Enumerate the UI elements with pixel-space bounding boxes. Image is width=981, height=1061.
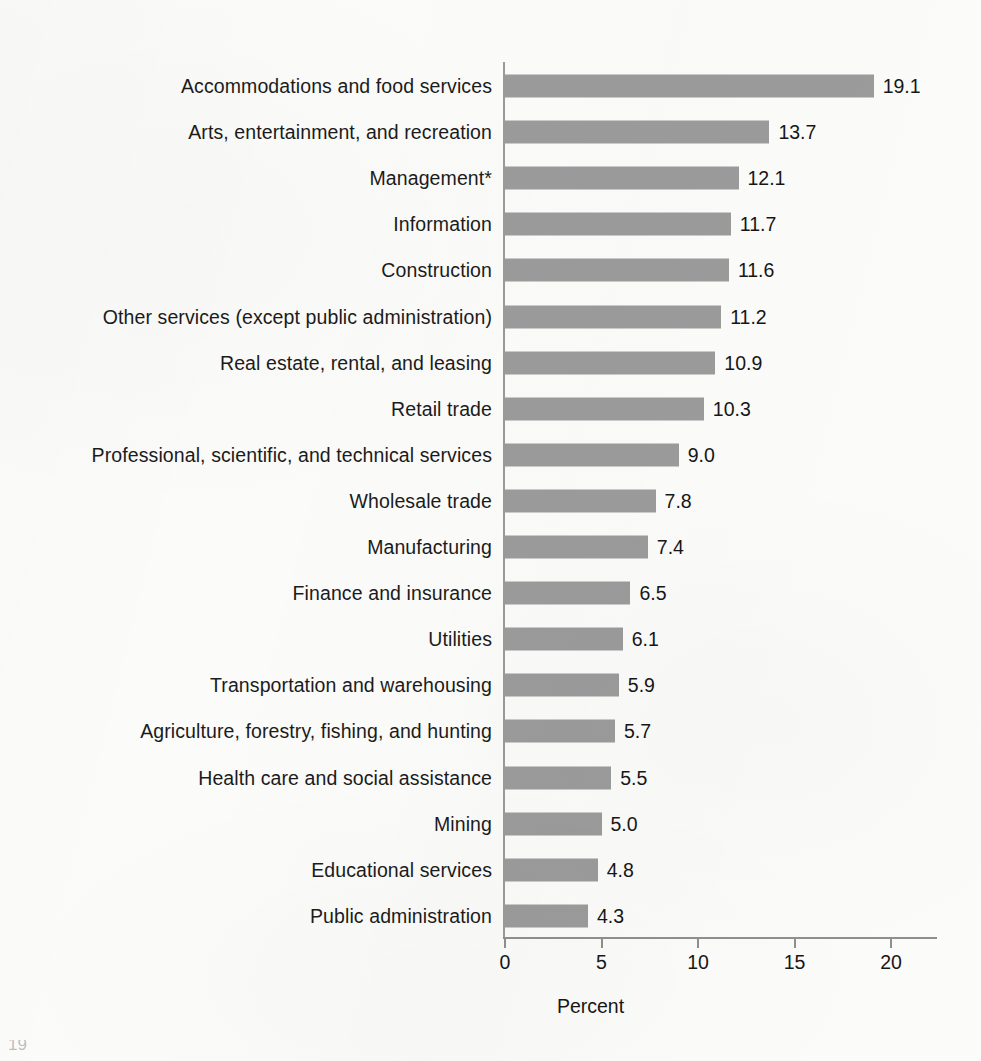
category-label: Educational services xyxy=(311,858,492,881)
bar-row: Public administration4.3 xyxy=(0,893,981,939)
category-label: Accommodations and food services xyxy=(181,75,492,98)
bar-row: Accommodations and food services19.1 xyxy=(0,63,981,109)
x-tick-mark xyxy=(890,939,892,948)
x-axis-title: Percent xyxy=(0,995,981,1018)
bar xyxy=(505,259,729,282)
bar xyxy=(505,489,656,512)
x-tick-label: 5 xyxy=(596,951,607,974)
bar xyxy=(505,167,739,190)
bar-value-label: 11.6 xyxy=(738,259,775,282)
bar-value-label: 6.5 xyxy=(639,582,666,605)
plot-area: Accommodations and food services19.1Arts… xyxy=(0,0,981,961)
x-tick-mark xyxy=(697,939,699,948)
category-label: Information xyxy=(393,213,492,236)
x-tick-label: 15 xyxy=(784,951,806,974)
bar-row: Wholesale trade7.8 xyxy=(0,478,981,524)
bar-value-label: 7.8 xyxy=(665,489,692,512)
bar-value-label: 5.0 xyxy=(611,812,638,835)
bar-row: Arts, entertainment, and recreation13.7 xyxy=(0,109,981,155)
bar-row: Health care and social assistance5.5 xyxy=(0,755,981,801)
bar-row: Retail trade10.3 xyxy=(0,386,981,432)
bar xyxy=(505,305,721,328)
bar-row: Construction11.6 xyxy=(0,247,981,293)
bar-value-label: 6.1 xyxy=(632,628,659,651)
bar-value-label: 5.5 xyxy=(620,766,647,789)
bar-value-label: 5.7 xyxy=(624,720,651,743)
bar-row: Transportation and warehousing5.9 xyxy=(0,662,981,708)
bar-row: Agriculture, forestry, fishing, and hunt… xyxy=(0,708,981,754)
category-label: Professional, scientific, and technical … xyxy=(92,443,492,466)
x-axis-title-text: Percent xyxy=(557,995,624,1018)
bar-value-label: 13.7 xyxy=(778,121,816,144)
category-label: Real estate, rental, and leasing xyxy=(220,351,492,374)
bar-chart-figure: Accommodations and food services19.1Arts… xyxy=(0,0,981,1061)
bar-row: Real estate, rental, and leasing10.9 xyxy=(0,340,981,386)
bar xyxy=(505,75,874,98)
bar-value-label: 10.3 xyxy=(713,397,751,420)
category-label: Agriculture, forestry, fishing, and hunt… xyxy=(140,720,492,743)
bar-value-label: 11.7 xyxy=(740,213,777,236)
page-number-fragment: 19 xyxy=(8,1040,27,1051)
x-tick-label: 20 xyxy=(880,951,902,974)
bar xyxy=(505,397,704,420)
bar-row: Management*12.1 xyxy=(0,155,981,201)
bar xyxy=(505,674,619,697)
bar xyxy=(505,536,648,559)
bar-value-label: 7.4 xyxy=(657,536,684,559)
bar-value-label: 9.0 xyxy=(688,443,715,466)
bar xyxy=(505,443,679,466)
category-label: Public administration xyxy=(310,904,492,927)
bar-value-label: 4.8 xyxy=(607,858,634,881)
category-label: Other services (except public administra… xyxy=(103,305,492,328)
bar-row: Professional, scientific, and technical … xyxy=(0,432,981,478)
category-label: Management* xyxy=(369,167,492,190)
bar-row: Information11.7 xyxy=(0,201,981,247)
bar-value-label: 19.1 xyxy=(883,75,921,98)
bar-row: Utilities6.1 xyxy=(0,616,981,662)
x-tick-mark xyxy=(794,939,796,948)
bar xyxy=(505,582,630,605)
category-label: Health care and social assistance xyxy=(198,766,492,789)
x-tick-label: 10 xyxy=(687,951,709,974)
bar-value-label: 12.1 xyxy=(748,167,786,190)
bar xyxy=(505,351,715,374)
bar-value-label: 5.9 xyxy=(628,674,655,697)
bar-row: Finance and insurance6.5 xyxy=(0,570,981,616)
category-label: Finance and insurance xyxy=(293,582,492,605)
bar-row: Manufacturing7.4 xyxy=(0,524,981,570)
x-tick-mark xyxy=(504,939,506,948)
category-label: Arts, entertainment, and recreation xyxy=(188,121,492,144)
bar xyxy=(505,213,731,236)
bar xyxy=(505,121,769,144)
bar-row: Educational services4.8 xyxy=(0,847,981,893)
category-label: Manufacturing xyxy=(367,536,492,559)
category-label: Retail trade xyxy=(391,397,492,420)
bar-row: Mining5.0 xyxy=(0,801,981,847)
category-label: Mining xyxy=(434,812,492,835)
bar xyxy=(505,858,598,881)
bar xyxy=(505,812,602,835)
bar-value-label: 4.3 xyxy=(597,904,624,927)
bar-value-label: 10.9 xyxy=(724,351,762,374)
bar xyxy=(505,766,611,789)
bar-value-label: 11.2 xyxy=(730,305,767,328)
category-label: Construction xyxy=(381,259,492,282)
category-label: Utilities xyxy=(428,628,492,651)
category-label: Transportation and warehousing xyxy=(210,674,492,697)
bar xyxy=(505,720,615,743)
x-tick-label: 0 xyxy=(500,951,511,974)
x-tick-mark xyxy=(601,939,603,948)
bar-row: Other services (except public administra… xyxy=(0,294,981,340)
bar xyxy=(505,628,623,651)
bar xyxy=(505,904,588,927)
category-label: Wholesale trade xyxy=(350,489,492,512)
